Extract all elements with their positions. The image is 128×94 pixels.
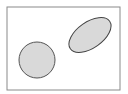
diagram-canvas <box>0 0 128 94</box>
circle-shape <box>19 42 55 78</box>
